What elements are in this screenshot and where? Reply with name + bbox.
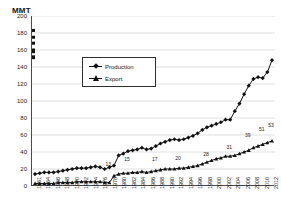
y-axis-tick-label: 0 (5, 183, 27, 189)
x-axis-tick-label: 1992 (178, 177, 184, 189)
x-axis-tick-label: 1996 (197, 177, 203, 189)
chart-container: MMT 020406080100120140160180200 19611964… (0, 0, 281, 224)
data-point-marker (144, 147, 148, 151)
data-point-marker (112, 163, 116, 167)
data-point-marker (242, 92, 246, 96)
y-axis-tick-label: 180 (5, 30, 27, 36)
x-axis-tick-label: 1980 (121, 177, 127, 189)
data-point-marker (51, 170, 55, 174)
x-axis-tick-label: 1988 (159, 177, 165, 189)
data-label: 15 (124, 156, 130, 162)
data-point-marker (177, 138, 181, 142)
x-axis-tick-label: 2000 (216, 177, 222, 189)
legend-label-production: Production (105, 64, 134, 70)
x-axis-tick-label: 1974 (93, 177, 99, 189)
data-point-marker (205, 125, 209, 129)
data-label: 20 (175, 155, 181, 161)
data-point-marker (214, 122, 218, 126)
data-point-marker (32, 29, 35, 32)
x-axis-tick-label: 2010 (264, 177, 270, 189)
x-axis-tick-label: 2006 (245, 177, 251, 189)
y-axis-tick-label: 160 (5, 47, 27, 53)
data-point-marker (219, 120, 223, 124)
x-axis-tick-label: 1982 (131, 177, 137, 189)
x-axis-tick-label: 1984 (140, 177, 146, 189)
data-point-marker (33, 172, 37, 176)
data-label: 53 (268, 122, 274, 128)
data-point-marker (140, 146, 144, 150)
data-point-marker (126, 149, 130, 153)
legend-item-production: Production (89, 63, 134, 70)
data-point-marker (168, 138, 172, 142)
legend-item-export: Export (89, 75, 122, 82)
data-point-marker (84, 166, 88, 170)
y-axis-tick-label: 20 (5, 166, 27, 172)
data-point-marker (32, 56, 35, 59)
x-axis-tick-label: 1998 (207, 177, 213, 189)
data-point-marker (158, 141, 162, 145)
data-point-marker (135, 147, 139, 151)
x-axis-tick-label: 1986 (150, 177, 156, 189)
data-point-marker (163, 140, 167, 144)
data-point-marker (32, 42, 35, 45)
data-point-marker (186, 135, 190, 139)
y-axis-tick-label: 80 (5, 115, 27, 121)
data-point-marker (172, 137, 176, 141)
data-point-marker (56, 169, 60, 173)
data-point-marker (47, 170, 51, 174)
data-point-marker (191, 134, 195, 138)
data-point-marker (32, 49, 35, 52)
x-axis-tick-label: 1994 (188, 177, 194, 189)
data-point-marker (256, 75, 260, 79)
data-point-marker (79, 166, 83, 170)
data-point-marker (182, 137, 186, 141)
x-axis-tick-label: 1990 (169, 177, 175, 189)
data-point-marker (93, 164, 97, 168)
data-point-marker (38, 171, 42, 175)
x-axis-tick-label: 2002 (226, 177, 232, 189)
data-point-marker (32, 36, 35, 39)
y-axis-tick-label: 40 (5, 149, 27, 155)
data-point-marker (42, 170, 46, 174)
data-point-marker (149, 146, 153, 150)
data-point-marker (209, 124, 213, 128)
y-axis-tick-label: 140 (5, 64, 27, 70)
data-label: 17 (152, 156, 158, 162)
triangle-marker-icon (89, 75, 102, 82)
x-axis-tick-label: 2012 (273, 177, 279, 189)
data-point-marker (70, 167, 74, 171)
x-axis-tick-label: 2008 (254, 177, 260, 189)
diamond-marker-icon (89, 63, 102, 70)
data-point-marker (65, 168, 69, 172)
data-point-marker (154, 144, 158, 148)
y-axis-tick-label: 100 (5, 98, 27, 104)
data-point-marker (270, 139, 274, 143)
data-label: 28 (203, 151, 209, 157)
x-axis-tick-label: 1964 (45, 177, 51, 189)
data-label: 39 (245, 132, 251, 138)
data-point-marker (75, 166, 79, 170)
data-point-marker (103, 167, 107, 171)
chart-legend: Production Export (82, 57, 156, 87)
x-axis-tick-label: 1961 (36, 177, 42, 189)
y-axis-tick-label: 200 (5, 13, 27, 19)
x-axis-tick-label: 1978 (112, 177, 118, 189)
x-axis-tick-label: 1966 (55, 177, 61, 189)
data-label: 31 (226, 144, 232, 150)
x-axis-tick-label: 1968 (64, 177, 70, 189)
data-label: 13 (106, 161, 112, 167)
data-point-marker (270, 58, 274, 62)
x-axis-tick-label: 1970 (74, 177, 80, 189)
y-axis-tick-label: 60 (5, 132, 27, 138)
x-axis-tick-label: 1972 (83, 177, 89, 189)
legend-label-export: Export (105, 76, 122, 82)
x-axis-tick-label: 1976 (102, 177, 108, 189)
data-label: 51 (259, 126, 265, 132)
data-point-marker (117, 153, 121, 157)
x-axis-tick-label: 2004 (235, 177, 241, 189)
y-axis-tick-label: 120 (5, 81, 27, 87)
